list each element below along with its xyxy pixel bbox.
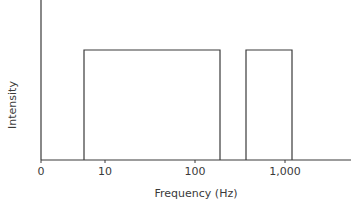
x-tick-label: 0: [38, 165, 45, 178]
frequency-band-bar: [246, 50, 292, 160]
x-axis-label: Frequency (Hz): [155, 187, 238, 200]
y-axis-label: Intensity: [6, 81, 19, 129]
frequency-band-bar: [84, 50, 220, 160]
x-tick-label: 10: [98, 165, 112, 178]
x-tick-label: 1,000: [269, 165, 301, 178]
bars: [84, 50, 292, 160]
axes: [41, 0, 351, 160]
chart-plot: [0, 0, 360, 209]
x-tick-label: 100: [185, 165, 206, 178]
